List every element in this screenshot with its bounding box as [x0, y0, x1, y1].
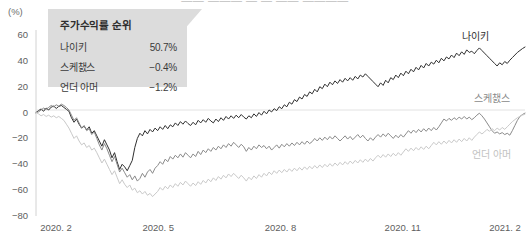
- series-label-under-armour: 언더 아머: [472, 146, 511, 161]
- callout-row-value: 50.7%: [150, 42, 177, 53]
- x-tick-label: 2020. 8: [265, 222, 297, 233]
- callout-row: 나이키 50.7%: [60, 39, 177, 54]
- x-tick-label: 2020. 11: [385, 222, 421, 233]
- callout-title: 주가수익률 순위: [60, 17, 177, 32]
- y-tick-label: −40: [4, 158, 28, 169]
- callout-row: 언더 아머 −1.2%: [60, 79, 177, 94]
- y-tick-label: −80: [4, 210, 28, 221]
- series-label-nike: 나이키: [462, 28, 489, 43]
- stock-return-chart: —— ——— — — —— ———— (%) 6040200−20−40−60−…: [0, 0, 530, 247]
- callout-row-value: −1.2%: [149, 82, 177, 93]
- callout-row-name: 언더 아머: [60, 79, 98, 94]
- x-tick-label: 2020. 5: [142, 222, 174, 233]
- y-tick-label: 40: [4, 55, 28, 66]
- y-tick-label: 0: [4, 107, 28, 118]
- ranking-callout-box: 주가수익률 순위 나이키 50.7% 스케챐스 −0.4% 언더 아머 −1.2…: [48, 9, 187, 87]
- callout-row: 스케챐스 −0.4%: [60, 59, 177, 74]
- y-tick-label: 20: [4, 81, 28, 92]
- callout-row-value: −0.4%: [149, 62, 177, 73]
- y-tick-label: 60: [4, 29, 28, 40]
- y-tick-label: −20: [4, 132, 28, 143]
- callout-row-name: 스케챐스: [60, 59, 95, 74]
- x-tick-label: 2020. 2: [40, 222, 72, 233]
- series-label-skechers: 스케챐스: [474, 90, 510, 105]
- y-tick-label: −60: [4, 184, 28, 195]
- callout-row-name: 나이키: [60, 39, 86, 54]
- x-tick-label: 2021. 2: [489, 222, 521, 233]
